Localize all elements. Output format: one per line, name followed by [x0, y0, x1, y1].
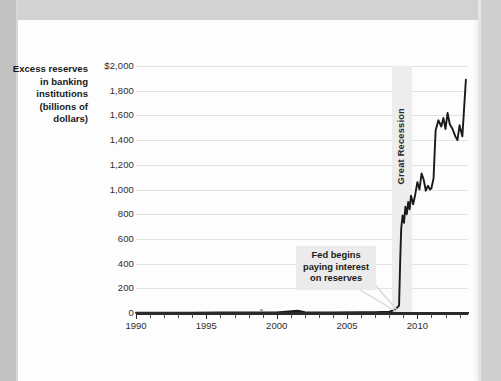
- x-axis-tick: [277, 314, 278, 319]
- chart-figure: Excess reserves in banking institutions …: [0, 0, 501, 381]
- y-axis-tick-label: 600: [118, 233, 134, 244]
- x-axis-tick: [291, 314, 292, 318]
- y-axis-tick-label: $2,000: [104, 60, 134, 71]
- x-axis-tick: [333, 314, 334, 318]
- x-axis-tick: [178, 314, 179, 318]
- x-axis-tick: [164, 314, 165, 318]
- y-axis-tick-label: 0: [129, 307, 134, 318]
- x-axis-tick: [235, 314, 236, 318]
- card-right-shadow: [473, 20, 478, 381]
- y-axis-tick-label: 200: [118, 282, 134, 293]
- fed-interest-callout: Fed begins paying interest on reserves: [296, 246, 376, 290]
- x-axis-tick: [305, 314, 306, 318]
- x-axis-tick: [136, 314, 137, 319]
- y-axis-tick-label: 400: [118, 258, 134, 269]
- x-axis-tick: [361, 314, 362, 318]
- x-axis-tick: [206, 314, 207, 319]
- x-axis-tick-label: 1995: [196, 320, 217, 331]
- x-axis-tick: [249, 314, 250, 318]
- y-axis-tick-label: 1,200: [110, 159, 134, 170]
- y-axis-title-line-5: dollars): [10, 113, 88, 126]
- y-axis-title: Excess reserves in banking institutions …: [10, 63, 88, 126]
- x-axis-line: [136, 312, 469, 314]
- y-axis-tick-label: 1,000: [110, 184, 134, 195]
- y-axis-tick-labels: 02004006008001,0001,2001,4001,6001,800$2…: [92, 58, 134, 320]
- page-top-margin: [18, 0, 478, 20]
- y-axis-title-line-3: institutions: [10, 88, 88, 101]
- x-axis-tick: [319, 314, 320, 318]
- y-axis-title-line-4: (billions of: [10, 101, 88, 114]
- x-axis-tick-label: 1990: [125, 320, 146, 331]
- x-axis-tick: [403, 314, 404, 318]
- x-axis-tick: [347, 314, 348, 319]
- x-axis-tick: [220, 314, 221, 318]
- recession-label: Great Recession: [396, 108, 406, 184]
- y-axis-tick-label: 1,400: [110, 134, 134, 145]
- callout-line-1: Fed begins: [303, 250, 369, 262]
- x-axis-tick: [460, 314, 461, 318]
- y-axis-tick-label: 800: [118, 208, 134, 219]
- y-axis-title-line-2: in banking: [10, 76, 88, 89]
- x-axis-tick: [192, 314, 193, 318]
- x-axis-tick: [417, 314, 418, 319]
- callout-line-2: paying interest: [303, 262, 369, 274]
- x-axis-tick: [263, 314, 264, 318]
- x-axis-tick: [431, 314, 432, 318]
- callout-line-3: on reserves: [303, 273, 369, 285]
- x-axis-tick-label: 2000: [266, 320, 287, 331]
- x-axis-tick-label: 2010: [407, 320, 428, 331]
- x-axis-tick: [375, 314, 376, 318]
- x-axis-tick: [446, 314, 447, 318]
- y-axis-tick-label: 1,600: [110, 109, 134, 120]
- x-axis-tick: [389, 314, 390, 318]
- x-axis-tick-label: 2005: [336, 320, 357, 331]
- x-axis-tick: [150, 314, 151, 318]
- y-axis-title-line-1: Excess reserves: [10, 63, 88, 76]
- y-axis-tick-label: 1,800: [110, 85, 134, 96]
